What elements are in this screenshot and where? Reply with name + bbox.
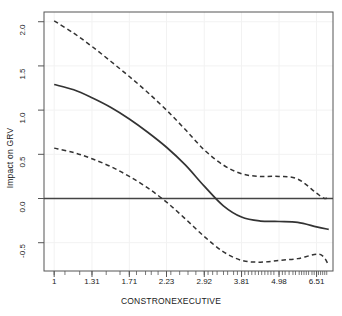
- series-fitted-effect: [54, 84, 329, 229]
- series-lower-confidence-band: [54, 148, 329, 266]
- x-tick-label: 4.98: [271, 277, 287, 286]
- y-tick-label: 0.5: [18, 157, 27, 168]
- x-tick-label: 2.23: [159, 277, 175, 286]
- y-tick-label: -0.5: [18, 244, 27, 258]
- plot-canvas: [0, 0, 342, 316]
- y-tick-label: 1.0: [18, 113, 27, 124]
- y-tick-label: 2.0: [18, 24, 27, 35]
- plot-frame: [44, 12, 333, 271]
- chart-figure: Impact on GRV CONSTRONEXECUTIVE 11.311.7…: [0, 0, 342, 316]
- x-tick-label: 1.71: [122, 277, 138, 286]
- x-tick-label: 1.31: [84, 277, 100, 286]
- y-tick-label: 0.0: [18, 201, 27, 212]
- x-tick-label: 2.92: [196, 277, 212, 286]
- x-tick-label: 3.81: [234, 277, 250, 286]
- y-tick-label: 1.5: [18, 68, 27, 79]
- x-tick-label: 1: [52, 277, 56, 286]
- x-tick-label: 6.51: [309, 277, 325, 286]
